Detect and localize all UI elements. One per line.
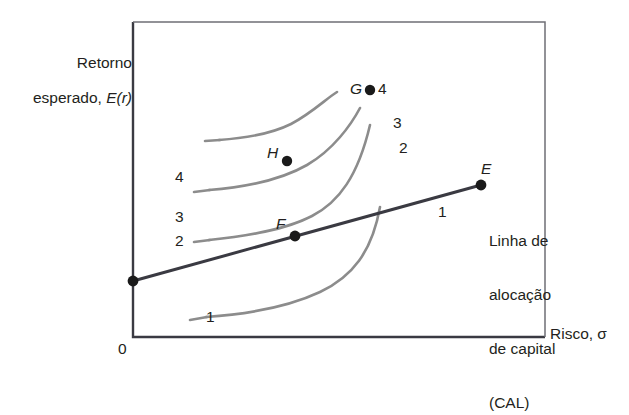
point-H <box>282 156 292 166</box>
point-label-E: E <box>481 160 491 178</box>
curve-label-bottom-1: 1 <box>206 308 215 326</box>
curve-label-left-3: 3 <box>175 208 184 226</box>
curve-4-left-tail <box>205 140 220 141</box>
curve-3-left-tail <box>194 190 210 192</box>
cal-caption-line3: de capital <box>489 340 555 358</box>
point-risk-free <box>128 276 139 287</box>
y-axis-title-line1: Retorno <box>77 54 132 71</box>
indifference-curve-4 <box>219 92 337 140</box>
cal-caption-line2: alocação <box>489 286 555 304</box>
point-label-F: F <box>276 215 285 233</box>
capital-allocation-line <box>133 185 481 281</box>
curve-label-top-2: 2 <box>399 139 408 157</box>
curve-label-right-1: 1 <box>438 203 447 221</box>
point-F <box>290 231 301 242</box>
plot-frame <box>133 22 545 337</box>
point-label-G: G <box>350 80 362 98</box>
cal-caption: Linha de alocação de capital (CAL) <box>489 196 555 415</box>
origin-label: 0 <box>118 340 127 358</box>
x-axis-title: Risco, σ <box>550 325 607 343</box>
indifference-curve-3 <box>209 108 360 190</box>
y-axis-title-line2-text: esperado, <box>33 89 106 106</box>
y-axis-title: Retorno esperado, E(r) <box>12 36 132 142</box>
curve-1-left-tail <box>190 317 207 320</box>
y-axis-title-line2: esperado, E(r) <box>12 89 132 107</box>
y-axis-title-symbol: E(r) <box>106 89 132 106</box>
curve-label-top-3: 3 <box>393 114 402 132</box>
curve-label-top-4: 4 <box>378 80 387 98</box>
curve-label-left-2: 2 <box>175 232 184 250</box>
point-G <box>365 85 375 95</box>
curve-label-left-4: 4 <box>175 168 184 186</box>
cal-caption-line1: Linha de <box>489 232 555 250</box>
point-label-H: H <box>267 144 278 162</box>
point-E <box>476 180 487 191</box>
cal-caption-line4: (CAL) <box>489 394 555 412</box>
curve-2-left-tail <box>194 240 210 242</box>
